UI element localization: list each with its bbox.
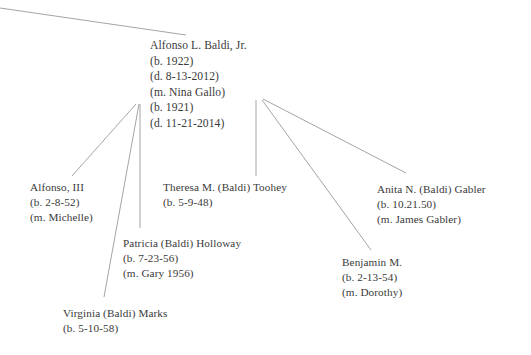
person-node-benjamin-m: Benjamin M. (b. 2-13-54) (m. Dorothy) (342, 255, 402, 300)
connector-root-to-anita (263, 99, 406, 173)
person-born: (b. 5-10-58) (63, 321, 167, 336)
person-name: Theresa M. (Baldi) Toohey (163, 180, 287, 195)
person-died: (d. 8-13-2012) (150, 69, 247, 85)
person-node-alfonso-l-baldi-jr: Alfonso L. Baldi, Jr. (b. 1922) (d. 8-13… (150, 38, 247, 131)
person-married: (m. Gary 1956) (123, 266, 241, 281)
person-name: Patricia (Baldi) Holloway (123, 236, 241, 251)
person-node-virginia-marks: Virginia (Baldi) Marks (b. 5-10-58) (63, 306, 167, 336)
person-married: (m. Michelle) (30, 210, 93, 225)
person-born: (b. 5-9-48) (163, 195, 287, 210)
person-born: (b. 2-13-54) (342, 270, 402, 285)
connector-root-to-alfonso-iii (72, 104, 136, 176)
spouse-died: (d. 11-21-2014) (150, 116, 247, 132)
person-node-theresa-toohey: Theresa M. (Baldi) Toohey (b. 5-9-48) (163, 180, 287, 210)
person-born: (b. 10.21.50) (377, 197, 486, 212)
person-born: (b. 1922) (150, 54, 247, 70)
spouse-born: (b. 1921) (150, 100, 247, 116)
person-node-alfonso-iii: Alfonso, III (b. 2-8-52) (m. Michelle) (30, 180, 93, 225)
person-name: Alfonso, III (30, 180, 93, 195)
person-name: Virginia (Baldi) Marks (63, 306, 167, 321)
connector-top-left-stray (0, 8, 186, 35)
person-married: (m. James Gabler) (377, 212, 486, 227)
person-node-patricia-holloway: Patricia (Baldi) Holloway (b. 7-23-56) (… (123, 236, 241, 281)
person-name: Benjamin M. (342, 255, 402, 270)
family-tree-connectors (0, 0, 531, 355)
connector-root-to-benjamin (262, 100, 371, 250)
person-born: (b. 2-8-52) (30, 195, 93, 210)
person-born: (b. 7-23-56) (123, 251, 241, 266)
person-married: (m. Nina Gallo) (150, 85, 247, 101)
person-node-anita-gabler: Anita N. (Baldi) Gabler (b. 10.21.50) (m… (377, 182, 486, 227)
person-married: (m. Dorothy) (342, 285, 402, 300)
person-name: Anita N. (Baldi) Gabler (377, 182, 486, 197)
person-name: Alfonso L. Baldi, Jr. (150, 38, 247, 54)
